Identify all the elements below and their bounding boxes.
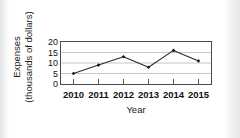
y-axis-tick-label: 20 [48, 38, 58, 47]
x-axis-tick-label: 2015 [188, 90, 209, 100]
x-axis-tick-label: 2013 [138, 90, 159, 100]
y-axis-title-line2: (thousands of dollars) [23, 11, 35, 102]
y-axis-tick-label: 10 [48, 59, 58, 68]
x-axis-tick-marks [74, 79, 199, 84]
y-axis-title: Expenses (thousands of dollars) [6, 14, 40, 100]
x-axis-tick-label: 2010 [63, 90, 84, 100]
data-point-marker [122, 55, 126, 59]
data-line-expenses [74, 50, 199, 73]
y-axis-tick-label: 0 [53, 80, 58, 89]
x-axis-tick-label: 2011 [88, 90, 109, 100]
y-axis-tick-labels: 05101520 [38, 41, 58, 85]
x-axis-title: Year [60, 104, 212, 115]
chart-figure: Expenses (thousands of dollars) 05101520… [0, 0, 240, 138]
data-point-marker [97, 63, 101, 67]
x-axis-tick-label: 2012 [113, 90, 134, 100]
data-point-marker [197, 59, 201, 63]
page-edge-shadow-right [224, 0, 240, 138]
x-axis-tick-label: 2014 [163, 90, 184, 100]
line-chart-svg [61, 42, 211, 84]
y-axis-tick-label: 5 [53, 69, 58, 78]
y-axis-title-line1: Expenses [11, 11, 23, 102]
y-axis-tick-label: 15 [48, 48, 58, 57]
x-axis-tick-labels: 201020112012201320142015 [60, 90, 212, 102]
plot-area [60, 41, 212, 85]
data-point-marker [72, 72, 76, 76]
